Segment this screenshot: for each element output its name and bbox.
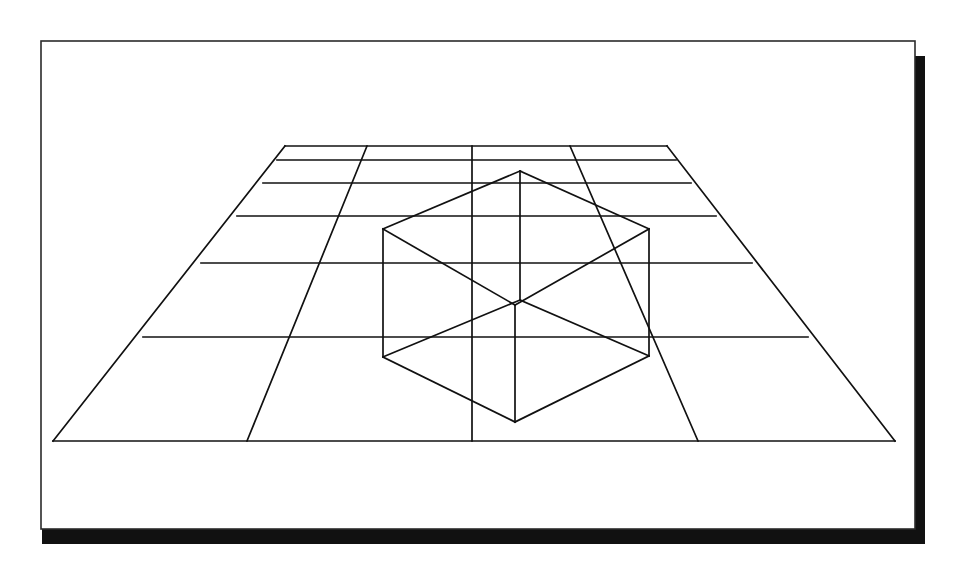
line-drawing-figure — [0, 0, 963, 565]
paper-card — [41, 41, 915, 529]
illustration-stage — [0, 0, 963, 565]
